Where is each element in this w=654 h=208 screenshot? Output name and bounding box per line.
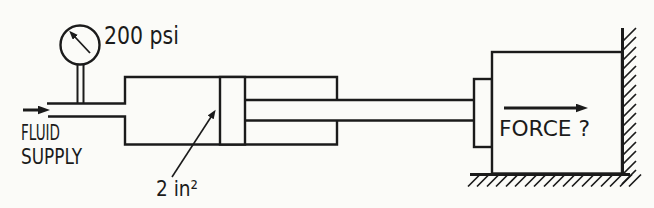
gauge-reading-label: 200 psi [104, 21, 179, 50]
piston [220, 77, 245, 145]
load-block [492, 52, 622, 174]
piston-rod [245, 100, 474, 121]
figure-canvas: 200 psi FLUID SUPPLY 2 in² FORCE ? [0, 0, 654, 208]
wall-hatching [622, 28, 636, 184]
force-question-label: FORCE ? [499, 116, 590, 141]
pressure-gauge-dial [61, 26, 100, 65]
fluid-supply-label-line1: FLUID [21, 120, 60, 145]
piston-area-label: 2 in² [156, 177, 198, 201]
fluid-supply-label-line2: SUPPLY [21, 144, 82, 169]
gauge-stem [78, 64, 84, 103]
ground-hatching [468, 175, 641, 187]
rod-flange [474, 79, 492, 147]
piston-area-leader-arrow [172, 117, 211, 177]
hydraulic-cylinder-diagram: 200 psi FLUID SUPPLY 2 in² FORCE ? [0, 0, 654, 208]
